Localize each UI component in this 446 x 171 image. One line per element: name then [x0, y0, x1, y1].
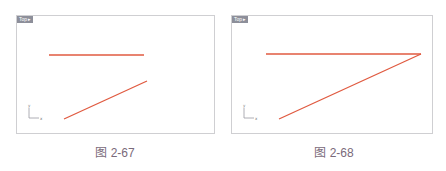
axis-icon: y x	[28, 103, 43, 121]
svg-text:y: y	[28, 103, 31, 108]
viewport-top-right: Top ▸ y x	[231, 15, 433, 134]
figure-caption: 图 2-67	[82, 143, 148, 160]
drawing-canvas: y x	[17, 16, 216, 135]
svg-text:y: y	[243, 103, 246, 108]
figure-caption: 图 2-68	[301, 143, 367, 160]
svg-text:x: x	[255, 116, 258, 121]
drawing-canvas: y x	[232, 16, 434, 135]
diagonal-line[interactable]	[279, 54, 421, 119]
diagonal-line[interactable]	[64, 81, 147, 119]
viewport-top-left: Top ▸ y x	[16, 15, 215, 134]
axis-icon: y x	[243, 103, 258, 121]
svg-text:x: x	[40, 116, 43, 121]
